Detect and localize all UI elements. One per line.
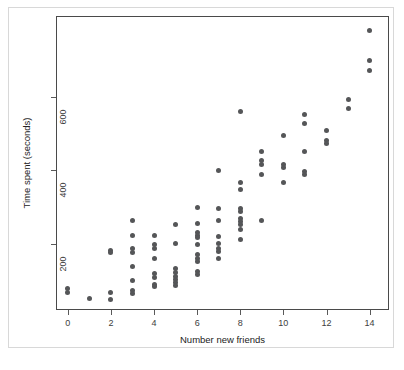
y-axis-tick bbox=[51, 97, 56, 98]
x-axis-tick-label: 0 bbox=[65, 318, 70, 328]
scatter-plot-figure: 02468101214200400600 Number new friends … bbox=[0, 0, 404, 370]
x-axis-tick-label: 12 bbox=[321, 318, 331, 328]
x-axis-tick bbox=[111, 310, 112, 315]
x-axis-tick bbox=[154, 310, 155, 315]
x-axis-tick-label: 6 bbox=[195, 318, 200, 328]
x-axis-tick-label: 8 bbox=[238, 318, 243, 328]
x-axis-tick bbox=[68, 310, 69, 315]
y-axis-tick-label: 600 bbox=[58, 109, 68, 124]
x-axis-tick-label: 2 bbox=[108, 318, 113, 328]
x-axis-tick bbox=[370, 310, 371, 315]
y-axis-label: Time spent (seconds) bbox=[21, 118, 32, 209]
x-axis-tick-label: 14 bbox=[365, 318, 375, 328]
y-axis-tick bbox=[51, 170, 56, 171]
x-axis-tick bbox=[283, 310, 284, 315]
x-axis-tick bbox=[240, 310, 241, 315]
y-axis-tick-label: 200 bbox=[58, 256, 68, 271]
x-axis-tick bbox=[327, 310, 328, 315]
plot-panel-frame bbox=[56, 16, 389, 310]
x-axis-tick bbox=[197, 310, 198, 315]
y-axis-tick-label: 400 bbox=[58, 183, 68, 198]
x-axis-tick-label: 4 bbox=[152, 318, 157, 328]
x-axis-tick-label: 10 bbox=[278, 318, 288, 328]
x-axis-label: Number new friends bbox=[56, 334, 389, 345]
y-axis-tick bbox=[51, 244, 56, 245]
